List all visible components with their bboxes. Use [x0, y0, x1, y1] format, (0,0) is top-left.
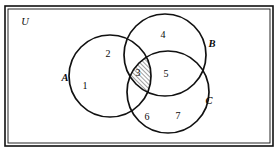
circle-set-b — [124, 14, 206, 96]
venn-diagram-figure: U A B C 1 2 3 4 5 6 7 — [0, 0, 278, 152]
region-number-6: 6 — [145, 111, 150, 122]
set-label-b: B — [207, 38, 215, 49]
set-label-a: A — [60, 72, 68, 83]
region-number-4: 4 — [161, 29, 166, 40]
region-number-2: 2 — [106, 48, 111, 59]
region-number-5: 5 — [164, 68, 169, 79]
universe-label: U — [21, 16, 30, 27]
venn-diagram-canvas: U A B C 1 2 3 4 5 6 7 — [0, 0, 278, 152]
region-number-3: 3 — [136, 67, 141, 78]
region-number-7: 7 — [176, 110, 181, 121]
set-label-c: C — [205, 95, 213, 106]
circle-set-c — [127, 51, 209, 133]
region-number-1: 1 — [83, 80, 88, 91]
